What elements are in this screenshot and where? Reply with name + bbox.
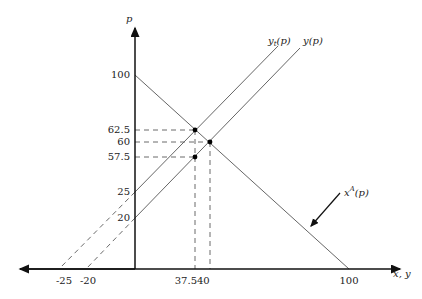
- x-tick-40: 40: [197, 275, 210, 286]
- x-tick-neg20: -20: [80, 275, 96, 286]
- demand-line: [135, 75, 349, 269]
- y-tick-57-5: 57.5: [108, 151, 130, 162]
- supply-t-extension: [60, 192, 135, 268]
- point-37-5-62-5: [193, 128, 198, 133]
- y-tick-60: 60: [117, 136, 130, 147]
- y-axis-label: p: [126, 13, 133, 24]
- y-tick-20: 20: [117, 212, 130, 223]
- point-40-60: [208, 140, 213, 145]
- point-37-5-57-5: [193, 155, 198, 160]
- supply-t-label: yt(p): [267, 35, 291, 48]
- x-axis-label: x, y: [393, 268, 411, 279]
- demand-label: xA(p): [344, 185, 369, 198]
- y-tick-25: 25: [117, 186, 130, 197]
- supply-demand-diagram: p x, y 100 62.5 60 57.5 25 20 -25 -20 37…: [0, 0, 422, 299]
- x-tick-37-5: 37.5: [175, 275, 197, 286]
- demand-annotation-arrow: [311, 193, 340, 226]
- supply-t-line: [135, 46, 278, 192]
- supply-label: y(p): [302, 35, 323, 46]
- y-tick-62-5: 62.5: [108, 124, 130, 135]
- x-tick-neg25: -25: [56, 275, 72, 286]
- supply-line: [135, 48, 300, 218]
- y-tick-100: 100: [111, 69, 130, 80]
- x-tick-100: 100: [339, 275, 358, 286]
- supply-extension: [87, 218, 135, 268]
